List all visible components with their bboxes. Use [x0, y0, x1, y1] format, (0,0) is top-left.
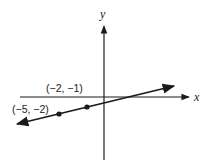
- point-label-neg2-neg1: (−2, −1): [46, 82, 83, 94]
- x-axis-label: x: [193, 90, 200, 104]
- coordinate-plane-diagram: x y (−2, −1) (−5, −2): [0, 0, 212, 167]
- point-label-neg5-neg2: (−5, −2): [12, 103, 49, 115]
- y-axis-label: y: [99, 7, 106, 21]
- point-neg2-neg1: [84, 104, 89, 109]
- point-neg5-neg2: [56, 111, 61, 116]
